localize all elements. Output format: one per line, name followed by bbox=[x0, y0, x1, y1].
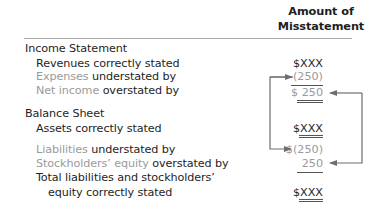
right-link-arrow-icon bbox=[330, 93, 362, 163]
reconciliation-arrows bbox=[0, 0, 383, 215]
left-link-arrow-icon bbox=[270, 77, 293, 149]
